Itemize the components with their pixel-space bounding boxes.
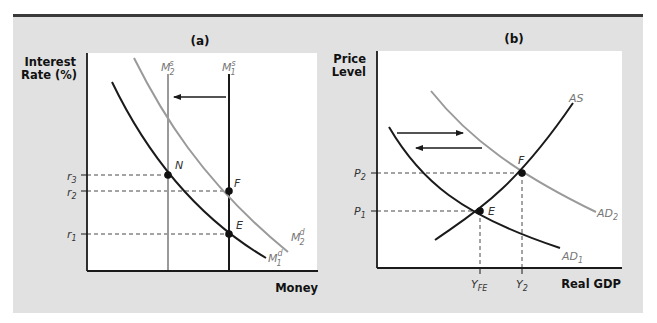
chart-b-tick-p2: P2: [354, 167, 366, 182]
chart-a-label-e: E: [236, 219, 243, 232]
chart-a-label-f: F: [234, 177, 241, 190]
chart-a-point-n: [164, 171, 172, 179]
chart-a-point-e: [225, 230, 233, 238]
chart-a-xlabel: Money: [275, 281, 318, 295]
chart-a-tick-r1: r1: [67, 228, 77, 243]
chart-a-tick-r3: r3: [67, 170, 77, 185]
chart-a-label-n: N: [175, 159, 183, 172]
chart-b-title: (b): [504, 32, 524, 46]
chart-b-tick-yfe: YFE: [471, 278, 488, 293]
chart-b-label-as: AS: [568, 92, 584, 105]
chart-a-point-f: [225, 187, 233, 195]
chart-b: (b) Price Level Real GDP F: [332, 32, 622, 293]
chart-a-plot-area: [87, 53, 317, 271]
chart-b-label-f: F: [518, 154, 525, 167]
chart-b-ylabel-line2: Level: [332, 65, 366, 79]
chart-b-tick-p1: P1: [354, 205, 366, 220]
chart-a-ylabel-line2: Rate (%): [21, 68, 77, 82]
chart-a-title: (a): [190, 34, 209, 48]
chart-b-tick-y2: Y2: [516, 278, 528, 293]
chart-b-point-f: [518, 169, 526, 177]
chart-b-plot-area: [377, 51, 622, 268]
chart-b-point-e: [476, 207, 484, 215]
chart-b-xlabel: Real GDP: [561, 277, 621, 291]
chart-a: (a) Interest Rate (%) Money N: [21, 34, 318, 295]
chart-a-tick-r2: r2: [67, 186, 77, 201]
figure-svg: (a) Interest Rate (%) Money N: [0, 0, 657, 323]
chart-b-label-e: E: [488, 205, 495, 218]
chart-a-ylabel-line1: Interest: [24, 55, 76, 69]
chart-b-ylabel-line1: Price: [333, 52, 366, 66]
